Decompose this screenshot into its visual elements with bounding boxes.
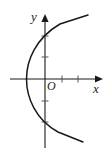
parabola-upper-branch: [27, 15, 89, 79]
y-axis-label: y: [31, 10, 37, 23]
math-figure: y x O: [0, 0, 109, 158]
y-axis-arrowhead: [41, 14, 48, 22]
axes-group: [10, 14, 103, 148]
x-axis-label: x: [93, 82, 99, 95]
origin-label: O: [47, 80, 56, 92]
